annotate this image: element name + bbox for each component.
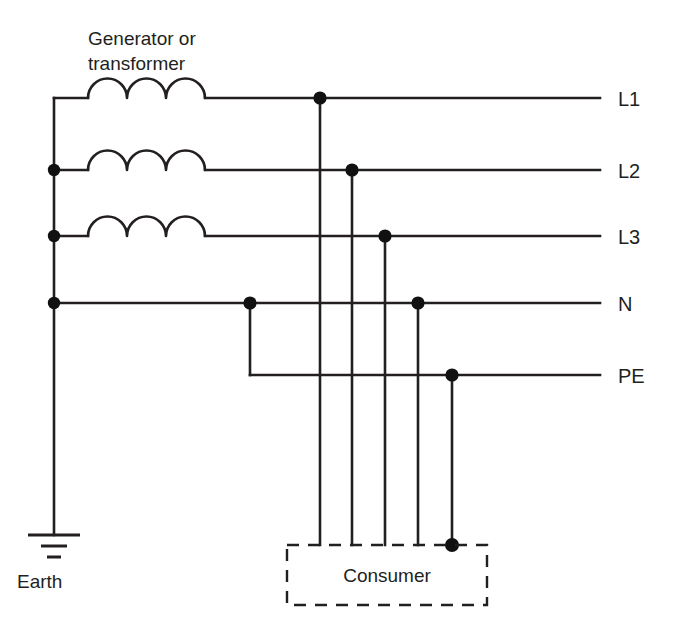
text-labels: Generator or transformer L1 L2 L3 N PE E… [17,28,645,592]
junction-dot-tap-n [411,296,424,309]
rail-label-l3: L3 [618,226,640,248]
electrical-schematic-svg: Generator or transformer L1 L2 L3 N PE E… [0,0,680,639]
rail-label-pe: PE [618,365,645,387]
consumer-label: Consumer [343,565,431,586]
junction-dot-tap-l3 [378,229,391,242]
junction-dot-tap-l2 [345,163,358,176]
junction-dot-bus-l2 [48,164,60,176]
supply-rails [54,98,600,375]
junction-dot-pen-bond [243,296,256,309]
junction-dot-tap-l1 [313,91,326,104]
source-label-line2: transformer [88,53,186,74]
winding-coil-l3 [88,217,205,237]
junction-dot-tap-pe [445,368,458,381]
winding-coil-l1 [88,79,205,99]
junction-dots [48,91,459,552]
junction-dot-bus-n [48,297,60,309]
rail-label-n: N [618,293,632,315]
junction-dot-bus-l3 [48,230,60,242]
winding-coil-l2 [88,151,205,171]
rail-label-l2: L2 [618,160,640,182]
schematic-canvas: Generator or transformer L1 L2 L3 N PE E… [0,0,680,639]
earth-label: Earth [17,571,62,592]
earth-ground-symbol [28,535,80,557]
rail-label-l1: L1 [618,88,640,110]
consumer-drop-conductors [320,98,452,545]
generator-transformer-windings [88,79,205,237]
source-label-line1: Generator or [88,28,196,49]
